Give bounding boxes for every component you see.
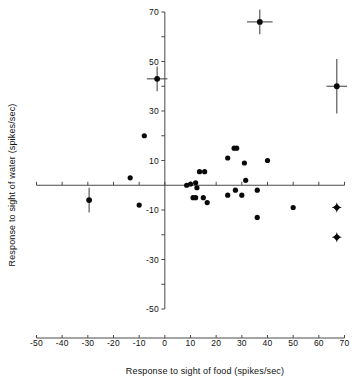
y-tick-label: -30 [146,255,159,265]
data-point [137,202,142,207]
x-tick-label: -30 [81,338,94,348]
x-tick-label: 60 [314,338,324,348]
data-point [128,175,133,180]
data-point [205,200,210,205]
x-tick-label: 0 [162,338,167,348]
star-point-core [334,235,339,240]
data-point [243,178,248,183]
mean-point [154,76,160,82]
x-tick-label: -10 [133,338,146,348]
data-point [193,195,198,200]
scatter-plot-figure: -50-40-30-20-10010203040506070-50-30-101… [0,0,363,379]
data-point [255,188,260,193]
x-tick-label: 40 [263,338,273,348]
data-point [194,185,199,190]
data-point [188,181,193,186]
y-tick-label: 10 [149,156,159,166]
data-point [225,155,230,160]
data-point [291,205,296,210]
data-point [234,146,239,151]
data-point [142,133,147,138]
y-tick-label: 70 [149,7,159,17]
y-tick-label: 50 [149,57,159,67]
data-point [201,195,206,200]
data-point [225,193,230,198]
mean-point [257,19,263,25]
x-tick-label: 50 [288,338,298,348]
y-tick-label: 30 [149,106,159,116]
star-point-core [334,205,339,210]
star-points-group [332,202,342,242]
y-tick-label: -50 [146,304,159,314]
mean-point [86,197,92,203]
x-tick-label: -50 [30,338,43,348]
data-point [265,158,270,163]
x-tick-label: 70 [340,338,350,348]
x-tick-label: 20 [211,338,221,348]
data-point [233,188,238,193]
x-tick-label: 10 [186,338,196,348]
axes-group [37,12,345,338]
mean-point [334,83,340,89]
y-axis-title: Response to sight of water (spikes/sec) [7,104,17,267]
x-tick-label: 30 [237,338,247,348]
data-point [239,193,244,198]
tick-labels-group: -50-40-30-20-10010203040506070-50-30-101… [30,7,349,348]
x-tick-label: -40 [56,338,69,348]
data-point [202,169,207,174]
plot-canvas: -50-40-30-20-10010203040506070-50-30-101… [0,0,363,379]
x-axis-title: Response to sight of food (spikes/sec) [126,366,284,376]
data-point [255,215,260,220]
data-point [242,160,247,165]
data-point [197,169,202,174]
x-tick-label: -20 [107,338,120,348]
y-tick-label: -10 [146,205,159,215]
data-point [193,180,198,185]
